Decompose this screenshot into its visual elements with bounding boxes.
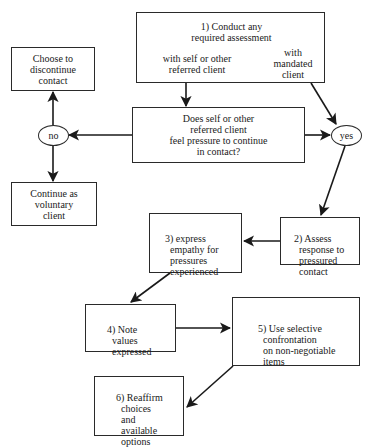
step5-box: 5) Use selective confrontation on non-ne… bbox=[232, 297, 360, 366]
arrow-step3-to-step4 bbox=[131, 273, 170, 302]
step1-branch-self-referred: with self or other referred client bbox=[147, 53, 247, 75]
step3-label: 3) express empathy for pressures experie… bbox=[160, 233, 219, 277]
arrow-step1-to-yes bbox=[311, 83, 336, 124]
question-label: Does self or other referred client feel … bbox=[169, 113, 267, 157]
discontinue-box: Choose to discontinue contact bbox=[11, 47, 95, 91]
step3-box: 3) express empathy for pressures experie… bbox=[149, 213, 242, 273]
arrow-step5-to-step6 bbox=[187, 366, 233, 407]
arrow-yes-to-step2 bbox=[321, 146, 345, 215]
question-box: Does self or other referred client feel … bbox=[132, 107, 305, 163]
step4-box: 4) Note values expressed bbox=[85, 304, 176, 352]
step1-branch-mandated: with mandated client bbox=[263, 47, 323, 80]
yes-decision-oval: yes bbox=[331, 125, 362, 146]
discontinue-label: Choose to discontinue contact bbox=[30, 53, 76, 86]
yes-label: yes bbox=[340, 130, 353, 141]
step6-box: 6) Reaffirm choices and available option… bbox=[94, 376, 184, 436]
step5-label: 5) Use selective confrontation on non-ne… bbox=[253, 323, 335, 367]
step1-title: 1) Conduct any required assessment bbox=[137, 21, 326, 43]
step4-label: 4) Note values expressed bbox=[102, 324, 151, 357]
voluntary-box: Continue as voluntary client bbox=[11, 182, 97, 226]
step2-box: 2) Assess response to pressured contact bbox=[280, 217, 360, 265]
voluntary-label: Continue as voluntary client bbox=[30, 188, 78, 221]
no-decision-oval: no bbox=[38, 125, 69, 146]
no-label: no bbox=[49, 130, 59, 141]
step1-box: 1) Conduct any required assessment with … bbox=[136, 12, 325, 83]
